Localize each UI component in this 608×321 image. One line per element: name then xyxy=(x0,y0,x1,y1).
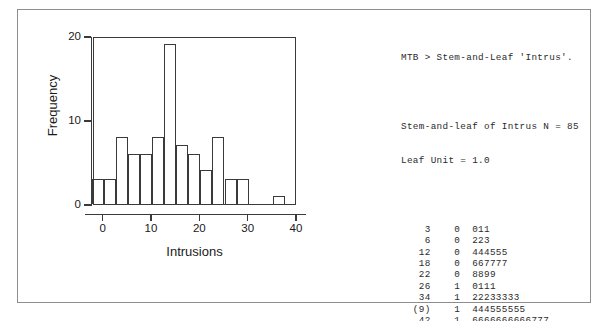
histogram-bar xyxy=(116,137,128,204)
histogram-bar xyxy=(200,170,212,204)
y-axis-tick-label: 20 xyxy=(68,31,81,43)
spacer xyxy=(401,189,608,200)
stem-and-leaf-row: 34 1 22233333 xyxy=(401,292,608,303)
histogram-bar xyxy=(104,179,116,204)
stem-and-leaf-row: 3 0 011 xyxy=(401,224,608,235)
stem-and-leaf-row: 42 1 6666666666777 xyxy=(401,315,608,321)
x-axis-tick-label: 20 xyxy=(193,223,206,235)
x-axis-tick-label: 40 xyxy=(290,223,303,235)
x-axis-tick-label: 30 xyxy=(241,223,254,235)
histogram-bar xyxy=(237,179,249,204)
y-axis-tick xyxy=(84,120,91,121)
stem-and-leaf-row: 12 0 444555 xyxy=(401,247,608,258)
y-axis-title: Frequency xyxy=(45,56,60,156)
x-axis-tick-label: 10 xyxy=(145,223,158,235)
x-axis-tick-label: 0 xyxy=(99,223,105,235)
spacer xyxy=(401,86,608,97)
y-axis-tick xyxy=(84,36,91,37)
histogram-bar xyxy=(152,137,164,204)
x-axis-tick xyxy=(102,214,103,221)
stem-and-leaf-row: (9) 1 444555555 xyxy=(401,304,608,315)
x-axis-tick xyxy=(150,214,151,221)
histogram-bar xyxy=(140,154,152,204)
histogram-bar xyxy=(128,154,140,204)
stem-and-leaf-header-leafunit: Leaf Unit = 1.0 xyxy=(401,155,608,166)
y-axis-tick xyxy=(84,204,91,205)
plot-frame xyxy=(93,37,296,205)
x-axis-tick xyxy=(247,214,248,221)
histogram-bar xyxy=(188,154,200,204)
histogram-bar xyxy=(273,196,285,204)
minitab-command-prompt: MTB > Stem-and-Leaf 'Intrus'. xyxy=(401,52,608,63)
histogram-bar xyxy=(225,179,237,204)
y-axis-tick-label: 10 xyxy=(68,115,81,127)
stem-and-leaf-row: 26 1 0111 xyxy=(401,281,608,292)
x-axis-tick xyxy=(199,214,200,221)
minitab-session-output: MTB > Stem-and-Leaf 'Intrus'. Stem-and-l… xyxy=(401,29,608,321)
x-axis-line xyxy=(85,214,306,215)
stem-and-leaf-row: 18 0 667777 xyxy=(401,258,608,269)
figure-frame: 01020 Frequency Intrusions 010203040 MTB… xyxy=(17,9,591,303)
x-axis-title: Intrusions xyxy=(93,244,296,259)
screenshot-root: 01020 Frequency Intrusions 010203040 MTB… xyxy=(0,0,608,321)
histogram-bar xyxy=(212,137,224,204)
stem-and-leaf-row: 22 0 8899 xyxy=(401,269,608,280)
histogram-bar xyxy=(92,179,104,204)
stem-and-leaf-header-n: Stem-and-leaf of Intrus N = 85 xyxy=(401,121,608,132)
stem-and-leaf-rows: 3 0 011 6 0 223 12 0 444555 18 0 667777 … xyxy=(401,224,608,321)
y-axis-tick-label: 0 xyxy=(75,199,81,211)
x-axis-tick xyxy=(295,214,296,221)
stem-and-leaf-row: 6 0 223 xyxy=(401,235,608,246)
histogram-bars xyxy=(94,38,295,204)
histogram-bar xyxy=(164,44,176,204)
histogram-bar xyxy=(176,145,188,204)
histogram-panel: 01020 Frequency Intrusions 010203040 xyxy=(36,20,326,275)
